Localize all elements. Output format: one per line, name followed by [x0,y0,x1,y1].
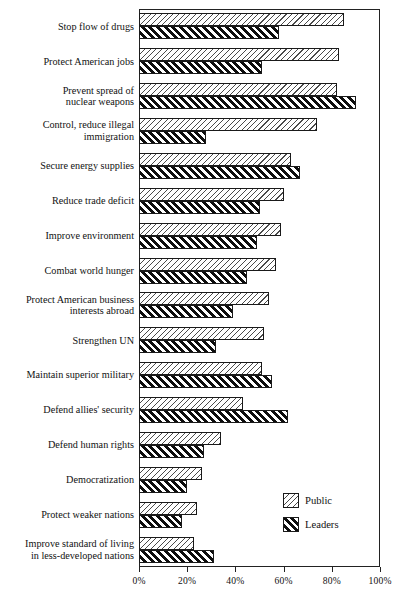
chart-row: Maintain superior military [0,362,402,388]
bar-leaders [139,340,216,353]
chart-row: Democratization [0,467,402,493]
bar-public [139,48,339,61]
bar-public [139,362,262,375]
category-label: Democratization [0,474,134,486]
category-label: Reduce trade deficit [0,195,134,207]
bar-pair [139,362,380,388]
bar-pair [139,83,380,109]
legend-label-public: Public [305,495,332,506]
category-label: Secure energy supplies [0,160,134,172]
bar-public [139,188,284,201]
bar-pair [139,188,380,214]
x-axis-tick-label: 40% [226,575,244,586]
bar-leaders [139,166,300,179]
category-label: Defend allies' security [0,404,134,416]
category-label: Strengthen UN [0,335,134,347]
chart-row: Stop flow of drugs [0,13,402,39]
x-axis-tick-label: 100% [368,575,391,586]
legend-label-leaders: Leaders [305,519,339,530]
bar-pair [139,118,380,144]
category-label: Improve standard of living in less-devel… [0,538,134,561]
bar-public [139,223,281,236]
bar-leaders [139,61,262,74]
bar-leaders [139,131,206,144]
bar-leaders [139,550,214,563]
bar-leaders [139,236,257,249]
category-label: Defend human rights [0,439,134,451]
x-axis-tick [235,567,236,572]
chart-row: Defend allies' security [0,397,402,423]
category-label: Combat world hunger [0,265,134,277]
bar-public [139,537,194,550]
bar-leaders [139,201,260,214]
chart-row: Secure energy supplies [0,153,402,179]
chart-row: Combat world hunger [0,258,402,284]
bar-pair [139,223,380,249]
bar-public [139,327,264,340]
x-axis-tick [139,567,140,572]
category-label: Protect American jobs [0,56,134,68]
x-axis-tick [380,567,381,572]
category-label: Maintain superior military [0,369,134,381]
bar-public [139,153,291,166]
chart-row: Improve environment [0,223,402,249]
category-rows: Stop flow of drugsProtect American jobsP… [0,9,402,567]
bar-public [139,118,317,131]
bar-leaders [139,26,279,39]
chart-row: Defend human rights [0,432,402,458]
bar-pair [139,13,380,39]
chart-row: Strengthen UN [0,327,402,353]
chart-row: Protect American jobs [0,48,402,74]
bar-leaders [139,445,204,458]
bar-pair [139,292,380,318]
bar-pair [139,467,380,493]
bar-public [139,397,243,410]
bar-leaders [139,515,182,528]
category-label: Protect weaker nations [0,509,134,521]
bar-public [139,292,269,305]
bar-pair [139,258,380,284]
bar-public [139,258,276,271]
x-axis-tick [284,567,285,572]
bar-leaders [139,410,288,423]
x-axis-tick-label: 80% [323,575,341,586]
chart-legend: Public Leaders [283,493,375,541]
x-axis: 0%20%40%60%80%100% [139,567,380,607]
x-axis-tick-label: 60% [275,575,293,586]
bar-leaders [139,375,272,388]
bar-public [139,13,344,26]
bar-leaders [139,96,356,109]
x-axis-tick [332,567,333,572]
x-axis-tick-label: 20% [178,575,196,586]
legend-item-public: Public [283,493,375,508]
bar-pair [139,327,380,353]
bar-leaders [139,305,233,318]
bar-pair [139,397,380,423]
bar-public [139,502,197,515]
chart-row: Control, reduce illegal immigration [0,118,402,144]
x-axis-tick-label: 0% [132,575,145,586]
bar-public [139,467,202,480]
bar-leaders [139,480,187,493]
chart-row: Prevent spread of nuclear weapons [0,83,402,109]
bar-chart: Stop flow of drugsProtect American jobsP… [0,0,402,614]
bar-leaders [139,271,247,284]
legend-swatch-leaders-icon [283,517,299,532]
category-label: Improve environment [0,230,134,242]
category-label: Prevent spread of nuclear weapons [0,85,134,108]
legend-item-leaders: Leaders [283,517,375,532]
legend-swatch-public-icon [283,493,299,508]
bar-pair [139,432,380,458]
bar-public [139,83,337,96]
chart-row: Reduce trade deficit [0,188,402,214]
bar-pair [139,48,380,74]
x-axis-tick [187,567,188,572]
category-label: Protect American business interests abro… [0,294,134,317]
category-label: Stop flow of drugs [0,21,134,33]
bar-pair [139,153,380,179]
chart-row: Protect American business interests abro… [0,292,402,318]
category-label: Control, reduce illegal immigration [0,119,134,142]
bar-public [139,432,221,445]
